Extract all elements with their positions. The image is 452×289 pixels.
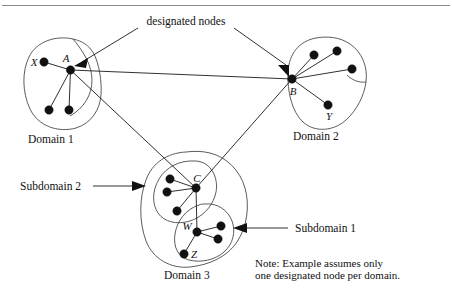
link-a-b [71,70,293,79]
node-W[interactable] [193,228,201,236]
node-subdomain1-lowerright[interactable] [214,235,222,243]
domain-2-inner-arc [347,75,366,82]
leader-designated-to-b [234,28,286,65]
node-X[interactable] [40,58,48,66]
leader-designated-to-a [82,28,138,62]
edge-a-lowerleft [49,70,71,110]
link-a-c [71,70,197,188]
node-domain2-upperleft[interactable] [310,51,318,59]
arrowhead-subdomain-1 [233,223,247,233]
arrowhead-designated-a [74,58,88,68]
node-domain1-lowerright[interactable] [65,106,73,114]
figure-container: A X B Y C W Z Domain 1 Domain 2 Domain 3… [0,0,452,289]
node-C[interactable] [192,184,200,192]
node-label-Y: Y [326,110,334,122]
node-A[interactable] [66,66,74,74]
domain-1-inner-arc [70,39,92,116]
node-subdomain2-left[interactable] [163,188,171,196]
link-b-c [196,79,292,188]
edge-b-right [292,69,352,79]
node-label-C: C [193,172,201,184]
node-Y[interactable] [324,101,332,109]
node-domain2-uppermid[interactable] [333,47,341,55]
callout-label-subdomain-2: Subdomain 2 [20,180,81,192]
node-B[interactable] [288,75,296,83]
callout-label-designated-nodes: designated nodes [147,15,226,28]
node-label-W: W [182,220,192,232]
node-subdomain1-upperright[interactable] [217,222,225,230]
domain-label-1: Domain 1 [28,133,74,145]
arrowhead-designated-b [278,65,289,77]
edge-a-lowerright [69,70,71,110]
node-domain2-right[interactable] [348,65,356,73]
note-line-2: one designated node per domain. [255,269,400,281]
node-label-B: B [290,85,297,97]
domain-label-2: Domain 2 [293,130,339,142]
callout-label-subdomain-1: Subdomain 1 [295,222,356,234]
arrowhead-subdomain-2 [132,181,146,191]
node-subdomain2-lowerleft[interactable] [173,207,181,215]
node-label-Z: Z [191,248,198,260]
edge-b-y [292,79,328,105]
node-label-X: X [30,56,39,68]
node-subdomain2-upperleft[interactable] [166,175,174,183]
domain-label-3: Domain 3 [164,269,210,281]
node-domain1-lowerleft[interactable] [45,106,53,114]
note-line-1: Note: Example assumes only [255,257,384,269]
node-Z[interactable] [180,250,188,258]
node-label-A: A [62,52,70,64]
network-domain-diagram: A X B Y C W Z Domain 1 Domain 2 Domain 3… [0,0,452,289]
edge-c-w [196,188,197,232]
